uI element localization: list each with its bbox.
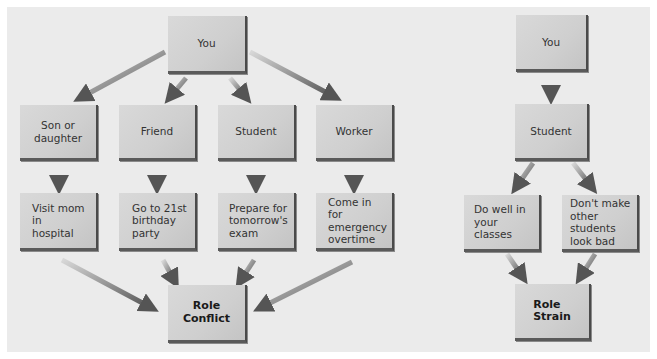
arrow-you-to-son [82, 52, 165, 97]
expectation-label: Visit mom in hospital [32, 202, 92, 240]
you-box-conflict: You [168, 16, 247, 74]
role-box-student: Student [218, 105, 296, 161]
role-conflict-label: Role Conflict [168, 300, 245, 325]
expectation-box-prepare-exam: Prepare for tomorrow's exam [218, 193, 296, 251]
role-label: Friend [141, 125, 173, 138]
role-strain-box: Role Strain [515, 284, 591, 341]
expectation-label: Prepare for tomorrow's exam [229, 202, 288, 240]
you-label: You [542, 36, 560, 49]
expectation-box-do-well: Do well in your classes [464, 195, 541, 252]
arrow-dowell-to-strain [507, 254, 522, 276]
arrow-overtime-to-conflict [262, 262, 352, 307]
expectation-box-dont-make-look-bad: Don't make other students look bad [562, 195, 639, 252]
expectation-label: Don't make other students look bad [570, 197, 633, 247]
role-label: Worker [336, 125, 373, 138]
role-box-friend: Friend [119, 105, 197, 161]
expectation-box-emergency-overtime: Come in for emergency overtime [316, 193, 394, 251]
expectation-label: Do well in your classes [474, 203, 535, 241]
arrow-party-to-conflict [163, 260, 174, 280]
arrow-you-to-student [230, 78, 245, 96]
you-label: You [197, 37, 215, 50]
arrow-you-to-worker [250, 52, 333, 96]
role-box-son-or-daughter: Son or daughter [20, 105, 98, 161]
arrow-student-to-dowell [517, 163, 533, 186]
arrow-visit-to-conflict [62, 260, 150, 307]
role-conflict-box: Role Conflict [168, 285, 247, 343]
arrow-student-to-dontmake [573, 163, 591, 186]
expectation-label: Come in for emergency overtime [328, 196, 388, 246]
role-box-student-strain: Student [515, 104, 589, 161]
role-label: Student [530, 125, 571, 138]
expectation-label: Go to 21st birthday party [132, 202, 187, 240]
you-box-strain: You [516, 15, 588, 72]
expectation-box-birthday-party: Go to 21st birthday party [119, 193, 197, 251]
arrow-exam-to-conflict [241, 260, 254, 280]
arrow-you-to-friend [171, 78, 186, 96]
arrow-dontmake-to-strain [581, 254, 595, 276]
role-label: Student [235, 125, 276, 138]
role-box-worker: Worker [316, 105, 394, 161]
role-strain-label: Role Strain [533, 299, 571, 324]
role-label: Son or daughter [34, 119, 82, 144]
expectation-box-visit-mom: Visit mom in hospital [20, 193, 98, 251]
